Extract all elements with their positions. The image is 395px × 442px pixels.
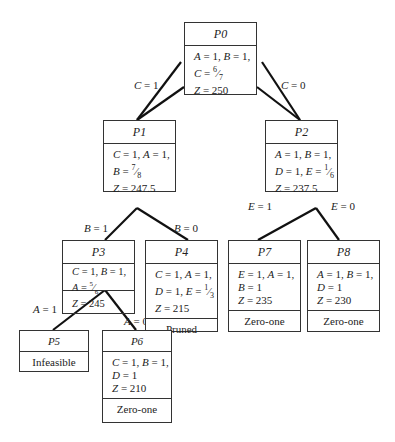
node-p2: P2 A = 1, B = 1, D = 1, E = 1⁄6 Z = 237.… bbox=[265, 120, 338, 192]
node-title: P0 bbox=[185, 23, 256, 46]
node-title: P8 bbox=[308, 241, 379, 264]
node-p3-frame bbox=[62, 240, 135, 314]
node-title: P1 bbox=[104, 121, 175, 144]
edge-label-c1: C C = 1= 1 bbox=[134, 79, 159, 91]
node-status: Zero-one bbox=[308, 310, 379, 331]
node-p7: P7 E = 1, A = 1, B = 1 Z = 235 Zero-one bbox=[228, 240, 301, 332]
edge-label-e1: E = 1 bbox=[248, 200, 272, 212]
node-title: P2 bbox=[266, 121, 337, 144]
node-status: Zero-one bbox=[103, 398, 171, 419]
node-p1: P1 C = 1, A = 1, B = 7⁄8 Z = 247.5 bbox=[103, 120, 176, 192]
node-title: P7 bbox=[229, 241, 300, 264]
node-status: Infeasible bbox=[20, 352, 88, 372]
edge-label-b1: B = 1 bbox=[84, 222, 108, 234]
node-title: P6 bbox=[103, 331, 171, 352]
node-title: P4 bbox=[146, 241, 217, 264]
node-p8: P8 A = 1, B = 1, D = 1 Z = 230 Zero-one bbox=[307, 240, 380, 332]
edge-p0-p1 bbox=[137, 87, 184, 120]
node-p0: P0 A = 1, B = 1, C = 6⁄7 Z = 250 bbox=[184, 22, 257, 95]
edge-label-e0: E = 0 bbox=[331, 200, 355, 212]
node-status: Zero-one bbox=[229, 310, 300, 331]
node-p6: P6 C = 1, B = 1, D = 1 Z = 210 Zero-one bbox=[102, 330, 172, 423]
node-title: P5 bbox=[20, 331, 88, 352]
edge-label-c0: C = 0 bbox=[281, 79, 306, 91]
node-p4: P4 C = 1, A = 1, D = 1, E = 1⁄3 Z = 215 … bbox=[145, 240, 218, 332]
node-p5: P5 Infeasible bbox=[19, 330, 89, 372]
edge-label-b0: B = 0 bbox=[174, 222, 198, 234]
edge-label-a1: A = 1 bbox=[33, 303, 57, 315]
